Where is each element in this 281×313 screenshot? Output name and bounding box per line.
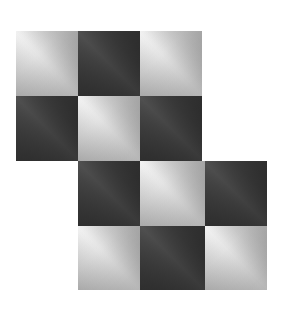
tile-r3-c3 [140, 161, 205, 226]
tile-r2-c1 [16, 96, 78, 161]
tile-r1-c1 [16, 31, 78, 96]
tile-r1-c3 [140, 31, 202, 96]
tile-r2-c3 [140, 96, 202, 161]
tile-r4-c4 [205, 226, 267, 290]
tile-r4-c2 [78, 226, 140, 290]
tile-r3-c2 [78, 161, 140, 226]
pattern-canvas [0, 0, 281, 313]
tile-r4-c3 [140, 226, 205, 290]
tile-r3-c4 [205, 161, 267, 226]
tile-r2-c2 [78, 96, 140, 161]
tile-r1-c2 [78, 31, 140, 96]
